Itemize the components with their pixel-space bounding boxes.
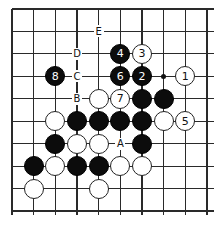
black-stone	[67, 156, 87, 176]
grid-line-horizontal	[12, 143, 214, 144]
grid-line-horizontal	[12, 8, 214, 10]
white-stone	[89, 89, 109, 109]
black-stone	[132, 89, 152, 109]
point-label-b: B	[72, 93, 82, 105]
white-stone	[89, 179, 109, 199]
white-stone-3: 3	[132, 44, 152, 64]
black-stone	[89, 111, 109, 131]
white-stone	[67, 134, 87, 154]
point-label-e: E	[94, 25, 104, 37]
black-stone	[24, 156, 44, 176]
grid-line-horizontal	[12, 31, 214, 32]
grid-line-vertical	[206, 9, 207, 215]
white-stone-7: 7	[110, 89, 130, 109]
white-stone-5: 5	[175, 111, 195, 131]
white-stone-1: 1	[175, 66, 195, 86]
black-stone-2: 2	[132, 66, 152, 86]
point-label-c: C	[72, 70, 82, 82]
black-stone	[110, 111, 130, 131]
grid-line-horizontal	[12, 210, 214, 211]
white-stone	[45, 156, 65, 176]
black-stone	[45, 134, 65, 154]
black-stone	[89, 156, 109, 176]
point-label-a: A	[115, 138, 125, 150]
star-point	[161, 74, 166, 79]
point-label-d: D	[72, 48, 82, 60]
black-stone-8: 8	[45, 66, 65, 86]
white-stone	[24, 179, 44, 199]
go-board: EDCBA43862175	[0, 0, 222, 225]
white-stone	[45, 111, 65, 131]
white-stone	[154, 111, 174, 131]
grid-line-vertical	[11, 9, 13, 215]
black-stone	[132, 111, 152, 131]
black-stone-4: 4	[110, 44, 130, 64]
white-stone	[132, 156, 152, 176]
black-stone	[132, 134, 152, 154]
black-stone	[67, 111, 87, 131]
black-stone	[154, 89, 174, 109]
white-stone	[89, 134, 109, 154]
black-stone-6: 6	[110, 66, 130, 86]
white-stone	[110, 156, 130, 176]
